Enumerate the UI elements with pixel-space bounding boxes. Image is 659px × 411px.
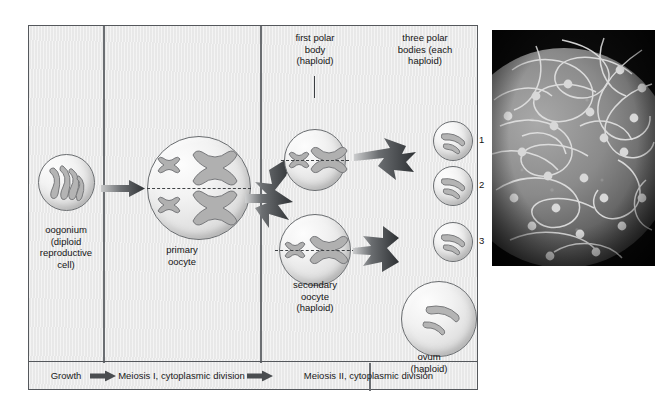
cell-ovum (401, 281, 477, 357)
phase-growth-label: Growth (51, 370, 82, 381)
label-primary-oocyte: primary oocyte (107, 244, 257, 267)
arrow-growth (99, 179, 147, 199)
phase-arrow-2 (247, 370, 273, 381)
phase-meiosis-2-label: Meiosis II, cytoplasmic division (304, 370, 433, 381)
label-first-polar-body: first polar body (haploid) (261, 32, 369, 67)
division-line-first-polar-body (281, 160, 349, 161)
division-line-secondary-oocyte (275, 250, 355, 251)
phase-growth: Growth (29, 362, 103, 389)
phase-arrow-1 (90, 370, 116, 381)
phase-meiosis-1-label: Meiosis I, cytoplasmic division (118, 370, 245, 381)
sperm-ovum-micrograph (492, 30, 655, 266)
arrow-first-polar-body-divides (354, 138, 428, 184)
micrograph-artwork (492, 30, 655, 266)
leader-line-first-polar-body (314, 76, 315, 98)
label-secondary-oocyte: secondary oocyte (haploid) (261, 279, 369, 314)
polar-body-number-2: 2 (479, 179, 484, 190)
cell-polar-body-2 (433, 166, 473, 206)
oogenesis-diagram-panel: 1 2 3 oogonium (diploid reproductive cel… (28, 25, 478, 390)
polar-body-number-1: 1 (479, 134, 484, 145)
label-three-polar-bodies: three polar bodies (each haploid) (371, 32, 479, 67)
label-oogonium: oogonium (diploid reproductive cell) (29, 224, 103, 270)
phase-meiosis-1: Meiosis I, cytoplasmic division (103, 362, 260, 389)
phase-meiosis-2: Meiosis II, cytoplasmic division (260, 362, 477, 389)
division-line-primary-oocyte (147, 188, 251, 189)
cell-oogonium (38, 154, 95, 211)
cell-polar-body-3 (433, 222, 473, 262)
cell-polar-body-1 (433, 121, 473, 161)
polar-body-number-3: 3 (479, 235, 484, 246)
arrow-meiosis-2-split (353, 222, 415, 282)
phase-bar: Growth Meiosis I, cytoplasmic division M… (29, 361, 477, 389)
